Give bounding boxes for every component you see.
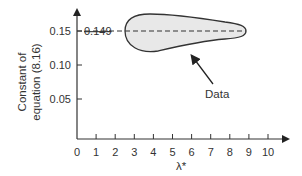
annotation-label-data: Data — [205, 88, 230, 100]
chart-canvas: 0.149 0.05 0.10 0.15 0 1 2 3 4 5 6 7 8 — [0, 0, 302, 176]
svg-text:0.10: 0.10 — [50, 59, 71, 71]
y-tick-labels: 0.05 0.10 0.15 — [50, 25, 71, 105]
svg-text:9: 9 — [246, 146, 252, 158]
svg-text:0.05: 0.05 — [50, 93, 71, 105]
svg-text:6: 6 — [189, 146, 195, 158]
x-axis-arrow-icon — [282, 135, 290, 143]
svg-text:equation (8.16): equation (8.16) — [30, 43, 42, 121]
svg-text:1: 1 — [93, 146, 99, 158]
svg-text:Constant of: Constant of — [16, 52, 28, 112]
svg-text:10: 10 — [262, 146, 274, 158]
svg-text:4: 4 — [150, 146, 156, 158]
y-axis-arrow-icon — [73, 8, 81, 16]
svg-text:2: 2 — [112, 146, 118, 158]
svg-text:0.15: 0.15 — [50, 25, 71, 37]
x-ticks — [96, 134, 268, 139]
y-ticks — [77, 31, 82, 99]
svg-text:3: 3 — [131, 146, 137, 158]
data-envelope — [125, 14, 246, 52]
reference-value-label: 0.149 — [84, 25, 112, 37]
svg-text:0: 0 — [74, 146, 80, 158]
svg-text:8: 8 — [227, 146, 233, 158]
annotation-arrow-icon — [192, 56, 213, 84]
svg-text:5: 5 — [169, 146, 175, 158]
y-axis-title: Constant of equation (8.16) — [16, 43, 42, 121]
x-tick-labels: 0 1 2 3 4 5 6 7 8 9 10 — [74, 146, 274, 158]
x-axis-title: λ* — [176, 160, 187, 172]
svg-text:7: 7 — [208, 146, 214, 158]
